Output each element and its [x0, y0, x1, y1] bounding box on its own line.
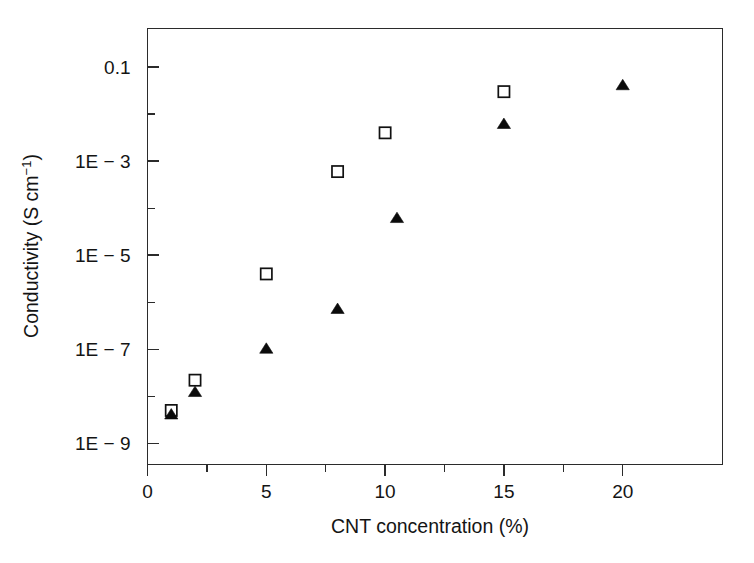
figure-container: 0.11E − 31E − 51E − 71E − 9 05101520 CNT… — [0, 0, 754, 563]
data-point-square — [332, 166, 343, 177]
data-point-square — [380, 127, 391, 138]
x-axis-tick-labels: 05101520 — [142, 481, 633, 502]
x-tick-label: 0 — [142, 481, 153, 502]
data-point-square — [189, 375, 200, 386]
y-tick-label: 1E − 5 — [75, 245, 130, 266]
series-open-squares — [166, 86, 510, 416]
data-point-triangle — [188, 386, 201, 396]
x-tick-label: 20 — [612, 481, 633, 502]
data-point-square — [498, 86, 509, 97]
data-point-triangle — [331, 303, 344, 313]
data-point-square — [261, 268, 272, 279]
y-axis-major-ticks — [148, 67, 159, 443]
data-point-triangle — [390, 212, 403, 222]
x-axis-title: CNT concentration (%) — [331, 515, 529, 537]
y-tick-label: 0.1 — [104, 57, 130, 78]
data-point-triangle — [260, 343, 273, 353]
series-filled-triangles — [165, 79, 630, 419]
y-axis-title-main: Conductivity (S cm — [20, 175, 42, 338]
x-tick-label: 5 — [261, 481, 272, 502]
x-axis-major-ticks — [148, 465, 623, 476]
x-tick-label: 15 — [493, 481, 514, 502]
plot-frame — [148, 29, 723, 465]
y-axis-title: Conductivity (S cm−1) — [19, 154, 42, 338]
data-point-triangle — [165, 409, 178, 419]
y-tick-label: 1E − 3 — [75, 151, 130, 172]
y-axis-title-close: ) — [20, 154, 42, 161]
scatter-plot: 0.11E − 31E − 51E − 71E − 9 05101520 CNT… — [0, 0, 754, 563]
y-tick-label: 1E − 7 — [75, 339, 130, 360]
x-tick-label: 10 — [375, 481, 396, 502]
y-axis-title-superscript: −1 — [19, 161, 34, 176]
y-axis-tick-labels: 0.11E − 31E − 51E − 71E − 9 — [75, 57, 130, 454]
data-point-triangle — [616, 79, 629, 89]
data-point-triangle — [497, 118, 510, 128]
y-tick-label: 1E − 9 — [75, 433, 130, 454]
